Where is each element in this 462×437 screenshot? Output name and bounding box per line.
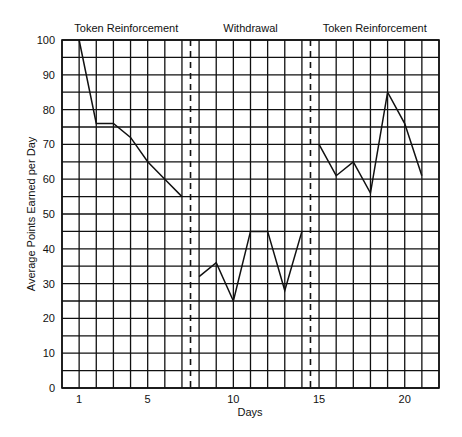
x-tick-label: 10	[227, 393, 239, 405]
y-tick-label: 40	[43, 243, 55, 255]
x-tick-label: 15	[313, 393, 325, 405]
y-tick-label: 70	[43, 138, 55, 150]
y-tick-label: 80	[43, 104, 55, 116]
x-tick-label: 5	[145, 393, 151, 405]
x-tick-label: 1	[76, 393, 82, 405]
x-axis-label: Days	[237, 406, 263, 418]
y-tick-label: 100	[37, 34, 55, 46]
phase-labels: Token ReinforcementWithdrawalToken Reinf…	[74, 22, 426, 34]
phase-label: Token Reinforcement	[74, 22, 178, 34]
y-tick-label: 50	[43, 208, 55, 220]
y-tick-label: 60	[43, 173, 55, 185]
phase-label: Withdrawal	[223, 22, 277, 34]
grid-lines	[62, 40, 439, 388]
y-axis-ticks: 0102030405060708090100	[37, 34, 55, 394]
y-tick-label: 90	[43, 69, 55, 81]
x-tick-label: 20	[399, 393, 411, 405]
y-axis-label: Average Points Earned per Day	[25, 136, 37, 291]
y-tick-label: 0	[49, 382, 55, 394]
y-tick-label: 10	[43, 347, 55, 359]
y-tick-label: 20	[43, 312, 55, 324]
x-axis-ticks: 15101520	[76, 393, 411, 405]
y-tick-label: 30	[43, 278, 55, 290]
line-chart: 0102030405060708090100 15101520 Token Re…	[0, 0, 462, 437]
phase-label: Token Reinforcement	[323, 22, 427, 34]
